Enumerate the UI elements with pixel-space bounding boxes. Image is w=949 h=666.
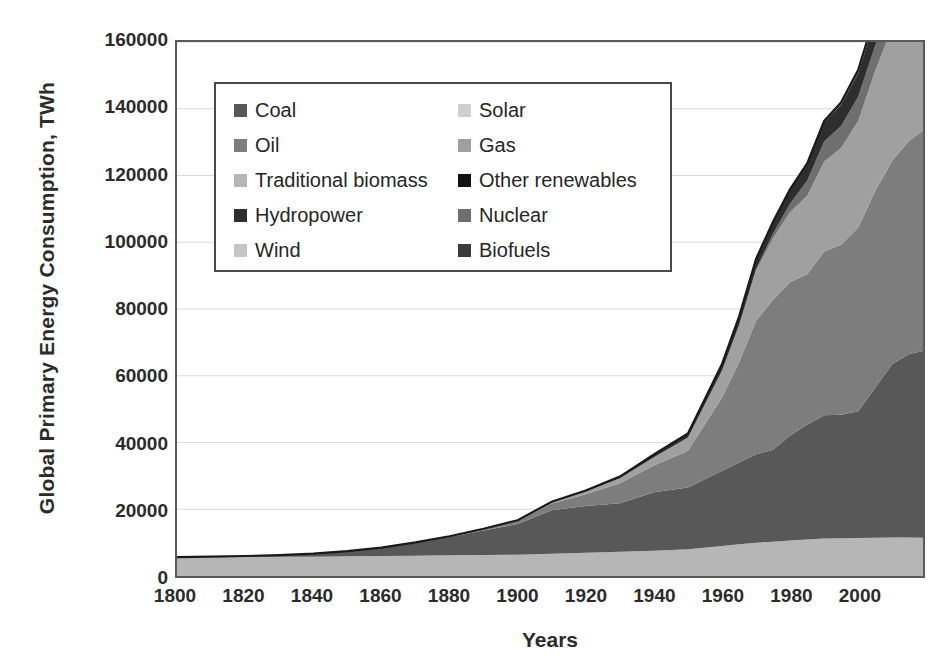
legend-label: Hydropower <box>255 204 363 227</box>
x-axis-title: Years <box>175 628 925 652</box>
legend-item-biofuels[interactable]: Biofuels <box>448 233 670 268</box>
legend-label: Wind <box>255 239 301 262</box>
legend-swatch-icon <box>234 209 247 222</box>
legend-row: CoalSolar <box>216 93 670 128</box>
chart-legend: CoalSolarOilGasTraditional biomassOther … <box>214 82 672 272</box>
legend-item-gas[interactable]: Gas <box>448 128 670 163</box>
legend-item-oil[interactable]: Oil <box>216 128 448 163</box>
y-axis-tick-labels: 1600001400001200001000008000060000400002… <box>60 0 168 666</box>
y-tick-label: 160000 <box>68 30 168 49</box>
legend-swatch-icon <box>458 244 471 257</box>
y-tick-label: 140000 <box>68 97 168 116</box>
legend-label: Biofuels <box>479 239 550 262</box>
y-tick-label: 100000 <box>68 232 168 251</box>
legend-label: Coal <box>255 99 296 122</box>
legend-row: WindBiofuels <box>216 233 670 268</box>
legend-item-other-renewables[interactable]: Other renewables <box>448 163 670 198</box>
y-tick-label: 60000 <box>68 366 168 385</box>
y-tick-label: 20000 <box>68 501 168 520</box>
legend-item-traditional-biomass[interactable]: Traditional biomass <box>216 163 448 198</box>
legend-swatch-icon <box>234 244 247 257</box>
legend-item-nuclear[interactable]: Nuclear <box>448 198 670 233</box>
legend-label: Oil <box>255 134 279 157</box>
y-tick-label: 80000 <box>68 299 168 318</box>
x-axis-tick-labels: 1800182018401860188019001920194019601980… <box>0 586 949 616</box>
legend-swatch-icon <box>234 104 247 117</box>
legend-label: Gas <box>479 134 516 157</box>
legend-swatch-icon <box>458 139 471 152</box>
legend-swatch-icon <box>234 174 247 187</box>
x-tick-label: 2000 <box>820 586 900 605</box>
legend-label: Other renewables <box>479 169 637 192</box>
legend-swatch-icon <box>458 104 471 117</box>
legend-row: HydropowerNuclear <box>216 198 670 233</box>
y-axis-title: Global Primary Energy Consumption, TWh <box>30 18 64 578</box>
legend-row: Traditional biomassOther renewables <box>216 163 670 198</box>
y-tick-label: 120000 <box>68 165 168 184</box>
legend-item-coal[interactable]: Coal <box>216 93 448 128</box>
legend-label: Solar <box>479 99 526 122</box>
y-tick-label: 40000 <box>68 434 168 453</box>
y-tick-label: 0 <box>68 568 168 587</box>
legend-item-wind[interactable]: Wind <box>216 233 448 268</box>
legend-label: Traditional biomass <box>255 169 428 192</box>
legend-swatch-icon <box>458 174 471 187</box>
legend-swatch-icon <box>458 209 471 222</box>
legend-item-hydropower[interactable]: Hydropower <box>216 198 448 233</box>
legend-row: OilGas <box>216 128 670 163</box>
legend-item-solar[interactable]: Solar <box>448 93 670 128</box>
legend-label: Nuclear <box>479 204 548 227</box>
legend-swatch-icon <box>234 139 247 152</box>
